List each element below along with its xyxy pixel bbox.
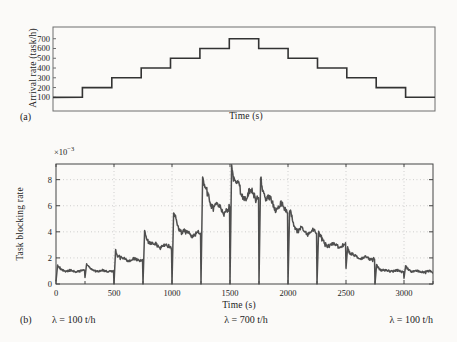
panel-a-tag: (a) <box>20 111 31 122</box>
x-tick-label: 3000 <box>396 288 413 298</box>
x-tick-label: 1500 <box>222 288 239 298</box>
x-tick-label: 1000 <box>164 288 181 298</box>
lambda-annotation-right: λ = 100 t/h <box>389 314 433 325</box>
y-tick-label: 700 <box>37 34 50 44</box>
panel-a-x-axis-label: Time (s) <box>229 111 263 121</box>
y-tick-label: 300 <box>37 73 50 83</box>
scale-base: ×10 <box>54 147 67 157</box>
x-tick-label: 2500 <box>338 288 355 298</box>
panel-b-x-axis-label: Time (s) <box>222 300 256 310</box>
lambda-annotation-left: λ = 100 t/h <box>52 314 96 325</box>
y-tick-label: 6 <box>48 201 52 211</box>
two-panel-figure: 100200300400500600700 Arrival rate (task… <box>0 0 457 342</box>
arrival-rate-step-line <box>53 39 435 98</box>
blocking-rate-curve <box>56 165 433 284</box>
panel-b-scale-note: ×10−3 <box>54 145 74 157</box>
panel-a-frame <box>53 27 435 111</box>
y-tick-label: 2 <box>48 253 52 263</box>
panel-b-y-axis-label: Task blocking rate <box>15 187 25 261</box>
scale-exponent: −3 <box>67 145 74 152</box>
x-tick-label: 0 <box>54 288 58 298</box>
y-tick-label: 0 <box>48 279 52 289</box>
lambda-annotation-center: λ = 700 t/h <box>224 314 268 325</box>
y-tick-label: 400 <box>37 63 50 73</box>
y-tick-label: 600 <box>37 43 50 53</box>
y-tick-label: 200 <box>37 83 50 93</box>
y-tick-label: 4 <box>48 227 53 237</box>
x-tick-label: 2000 <box>280 288 297 298</box>
panel-a-y-axis-label: Arrival rate (task/h) <box>28 28 38 108</box>
panel-b-tag: (b) <box>20 314 32 325</box>
y-tick-label: 8 <box>48 175 52 185</box>
y-tick-label: 100 <box>37 92 50 102</box>
y-tick-label: 500 <box>37 53 50 63</box>
x-tick-label: 500 <box>108 288 121 298</box>
task-blocking-rate-chart: 05001000150020002500300002468 <box>0 130 457 342</box>
